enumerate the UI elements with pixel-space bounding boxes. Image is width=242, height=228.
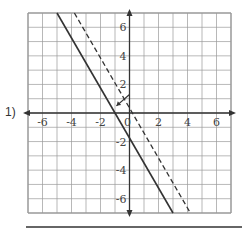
axes (23, 9, 236, 217)
coordinate-graph: -6-4-20246642-2-4-6 (0, 0, 242, 228)
svg-text:-2: -2 (116, 136, 127, 149)
svg-text:4: 4 (184, 116, 191, 129)
svg-text:6: 6 (213, 116, 220, 129)
svg-text:6: 6 (120, 21, 127, 34)
svg-text:-6: -6 (116, 193, 127, 206)
svg-text:4: 4 (120, 50, 127, 63)
svg-text:0: 0 (124, 116, 131, 129)
svg-text:-6: -6 (37, 116, 48, 129)
svg-text:-4: -4 (66, 116, 77, 129)
svg-text:2: 2 (155, 116, 162, 129)
svg-text:2: 2 (120, 78, 127, 91)
svg-text:-2: -2 (95, 116, 106, 129)
svg-text:-4: -4 (116, 164, 127, 177)
